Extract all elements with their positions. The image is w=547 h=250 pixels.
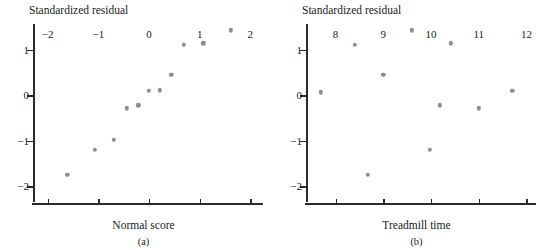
plot-area-b: 10−1−289101112 [306, 20, 536, 205]
y-tick-label-a: 0 [24, 90, 30, 101]
data-point [147, 89, 151, 93]
x-tick-label-b: 9 [381, 29, 387, 40]
y-tick-label-b: −2 [290, 181, 302, 192]
y-tick-label-b: 0 [297, 90, 303, 101]
data-point [319, 90, 323, 94]
data-point [112, 137, 116, 141]
x-tick-a [250, 199, 251, 205]
data-point [136, 103, 140, 107]
y-tick-label-b: −1 [290, 135, 302, 146]
y-tick-label-a: 1 [24, 45, 30, 56]
x-tick-b [526, 199, 527, 205]
x-tick-label-b: 12 [521, 29, 532, 40]
data-point [381, 73, 385, 77]
x-axis-line-b [305, 203, 536, 205]
panel-caption-a-text: (a) [124, 236, 150, 247]
x-tick-label-a: 1 [197, 29, 203, 40]
data-point [427, 148, 431, 152]
data-point [352, 42, 356, 46]
x-axis-label-b-text: Treadmill time [368, 219, 450, 231]
y-axis-label-b: Standardized residual [302, 4, 401, 16]
data-point [477, 106, 481, 110]
x-tick-label-a: −1 [92, 29, 104, 40]
y-tick-label-a: −2 [17, 181, 29, 192]
y-tick-label-b: 1 [297, 45, 303, 56]
data-point [157, 88, 161, 92]
x-axis-line-a [32, 203, 263, 205]
panel-caption-a: (a) [0, 236, 273, 247]
y-tick-label-a: −1 [17, 135, 29, 146]
data-point [510, 89, 514, 93]
x-tick-a [48, 199, 49, 205]
y-axis-line-a [33, 24, 35, 202]
panel-caption-b-text: (b) [396, 236, 422, 247]
data-point [437, 103, 441, 107]
data-point [228, 28, 232, 32]
x-tick-label-b: 10 [426, 29, 437, 40]
data-point [65, 172, 69, 176]
x-tick-b [336, 199, 337, 205]
x-tick-b [479, 199, 480, 205]
data-point [182, 42, 186, 46]
y-axis-line-b [306, 24, 308, 202]
panel-caption-b: (b) [273, 236, 546, 247]
panel-a: Standardized residual 10−1−2−2−1012 Norm… [0, 0, 273, 250]
data-point [410, 28, 414, 32]
x-axis-label-b: Treadmill time [273, 219, 546, 231]
x-tick-label-b: 11 [473, 29, 484, 40]
data-point [365, 172, 369, 176]
data-point [93, 148, 97, 152]
x-tick-label-a: 0 [146, 29, 152, 40]
plot-area-a: 10−1−2−2−1012 [33, 20, 263, 205]
x-tick-a [98, 199, 99, 205]
data-point [169, 73, 173, 77]
x-tick-label-b: 8 [333, 29, 339, 40]
x-tick-b [383, 199, 384, 205]
x-tick-a [200, 199, 201, 205]
data-point [449, 41, 453, 45]
x-tick-label-a: 2 [248, 29, 254, 40]
x-tick-label-a: −2 [42, 29, 54, 40]
residual-plot-figure: Standardized residual 10−1−2−2−1012 Norm… [0, 0, 547, 250]
x-tick-a [149, 199, 150, 205]
x-tick-b [431, 199, 432, 205]
data-point [201, 41, 205, 45]
data-point [125, 106, 129, 110]
x-axis-label-a-text: Normal score [98, 219, 174, 231]
panel-b: Standardized residual 10−1−289101112 Tre… [273, 0, 546, 250]
x-axis-label-a: Normal score [0, 219, 273, 231]
y-axis-label-a: Standardized residual [29, 4, 128, 16]
